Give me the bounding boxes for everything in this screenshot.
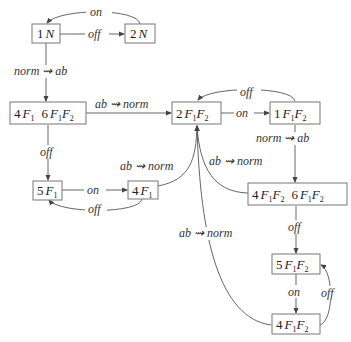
edge-label-norm-ab-right: norm ⇝ ab [256, 131, 309, 145]
state-diagram: on off norm ⇝ ab ab ⇝ norm off on norm ⇝… [0, 0, 351, 342]
edge-label-norm-ab: norm ⇝ ab [14, 64, 67, 78]
edge-label-on-right: on [236, 106, 248, 120]
edge-label-off-top: off [240, 85, 254, 99]
edge-label-ab-norm-1: ab ⇝ norm [95, 97, 149, 111]
svg-text:4F16F1F2: 4F16F1F2 [14, 106, 74, 123]
node-1f1f2: 1F1F2 [270, 102, 320, 124]
edge-label-ab-norm-3: ab ⇝ norm [209, 154, 263, 168]
svg-text:2N: 2N [130, 26, 149, 41]
node-4f1f2-6f1f2: 4F1F26F1F2 [248, 183, 347, 205]
node-4f1f2: 4F1F2 [272, 314, 320, 334]
edge-label-ab-norm-4: ab ⇝ norm [179, 226, 233, 240]
svg-text:4F1F2: 4F1F2 [276, 317, 308, 334]
node-4f1-6f1f2: 4F16F1F2 [10, 102, 86, 124]
node-5f1f2: 5F1F2 [272, 254, 320, 274]
edge-label-off-left: off [40, 145, 54, 159]
node-1n: 1N [32, 24, 60, 43]
edge-label-off-bottom: off [88, 202, 102, 216]
svg-text:1N: 1N [37, 26, 56, 41]
node-2n: 2N [125, 24, 155, 43]
node-5f1: 5F1 [33, 181, 62, 200]
svg-text:5F1F2: 5F1F2 [276, 257, 308, 274]
edge-label-ab-norm-2: ab ⇝ norm [120, 159, 174, 173]
edge-4f1-b-2f1f2 [158, 126, 197, 186]
edge-label-on-bottom: on [288, 285, 300, 299]
svg-text:1F1F2: 1F1F2 [274, 106, 306, 123]
edge-label-off-right: off [288, 220, 302, 234]
edge-label-on: on [90, 5, 102, 19]
node-4f1: 4F1 [128, 181, 158, 200]
edge-label-off-far-right: off [321, 286, 335, 300]
edge-label-on-left: on [87, 183, 99, 197]
svg-text:2F1F2: 2F1F2 [176, 106, 208, 123]
edge-label-off: off [88, 27, 102, 41]
node-2f1f2: 2F1F2 [172, 102, 221, 124]
